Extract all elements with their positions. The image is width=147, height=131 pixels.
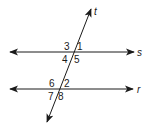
angle-4-label: 4 [62, 54, 68, 65]
parallel-lines-diagram: s r t 3 1 4 5 6 2 7 8 [0, 0, 147, 131]
angle-6-label: 6 [49, 78, 55, 89]
angle-1-label: 1 [77, 41, 83, 52]
line-r-label: r [137, 84, 141, 95]
angle-7-label: 7 [48, 91, 54, 102]
line-t-label: t [94, 6, 98, 17]
angle-2-label: 2 [64, 78, 70, 89]
line-s-label: s [137, 47, 142, 58]
angle-3-label: 3 [64, 41, 70, 52]
line-t [47, 9, 91, 122]
angle-8-label: 8 [58, 91, 64, 102]
angle-5-label: 5 [74, 54, 80, 65]
